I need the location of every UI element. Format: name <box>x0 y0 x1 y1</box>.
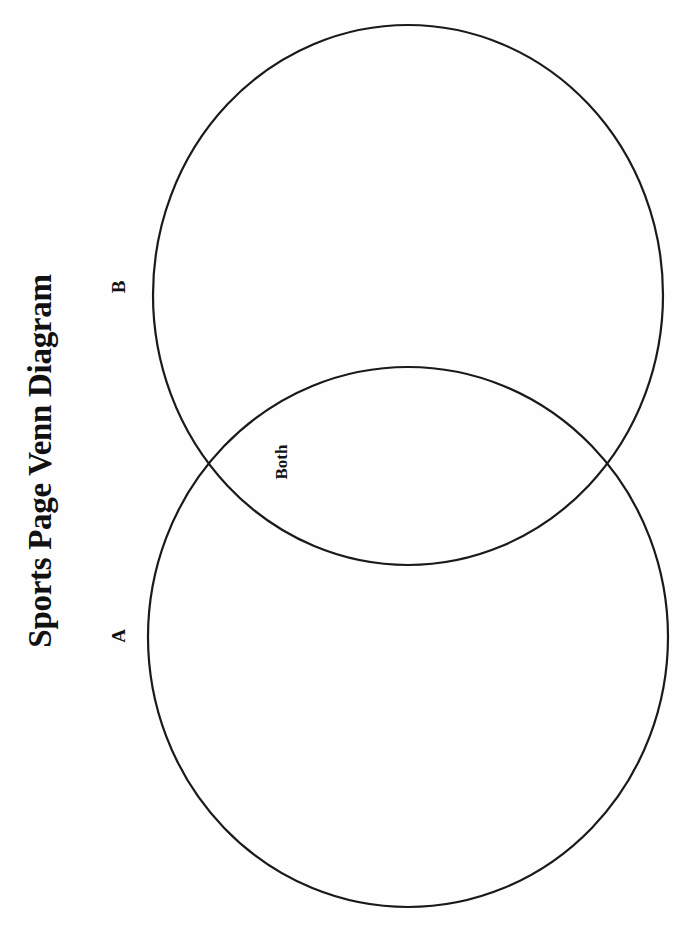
intersection-label: Both <box>273 445 290 480</box>
set-label-b: B <box>109 281 128 294</box>
venn-diagram <box>0 0 695 946</box>
page-title: Sports Page Venn Diagram <box>24 274 57 647</box>
set-label-a: A <box>109 629 128 643</box>
circle-a <box>148 367 668 907</box>
circle-b <box>153 25 663 565</box>
worksheet-page: Sports Page Venn Diagram B A Both <box>0 0 695 946</box>
